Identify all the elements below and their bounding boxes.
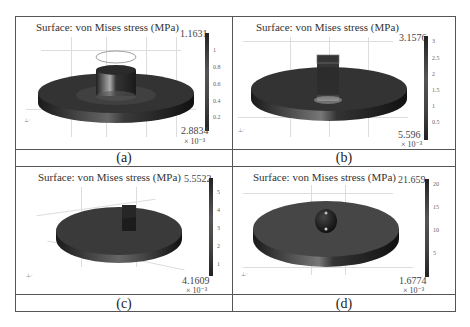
colorbar-tick: 3 bbox=[432, 38, 435, 44]
caption-b: (b) bbox=[233, 150, 455, 166]
colorbar-max: 21.659 bbox=[398, 174, 426, 185]
colorbar-tick: 5 bbox=[217, 189, 220, 195]
panel-b: Surface: von Mises stress (MPa) ⊥⁄ 3.157… bbox=[233, 17, 455, 149]
colorbar-min: 5.596 bbox=[398, 129, 421, 140]
colorbar-exponent: × 10⁻³ bbox=[184, 137, 205, 146]
colorbar-tick: 20 bbox=[433, 181, 439, 187]
colorbar-tick: 3 bbox=[217, 225, 220, 231]
panel-d: Surface: von Mises stress (MPa) ⊥⁄ 21.65… bbox=[233, 167, 455, 294]
panel-title: Surface: von Mises stress (MPa) bbox=[256, 21, 399, 33]
colorbar-tick: 2 bbox=[432, 71, 435, 77]
colorbar-tick: 0.5 bbox=[432, 119, 440, 125]
stress-surface-plot bbox=[36, 45, 196, 135]
colorbar-min: 2.8834 bbox=[181, 125, 209, 136]
axis-triad-icon: ⊥⁄ bbox=[26, 272, 32, 278]
axis-triad-icon: ⊥⁄ bbox=[238, 127, 244, 133]
colorbar-tick: 0.6 bbox=[213, 81, 221, 87]
stress-surface-plot bbox=[251, 197, 401, 272]
colorbar-exponent: × 10⁻³ bbox=[186, 286, 207, 294]
colorbar-tick: 1.5 bbox=[432, 87, 440, 93]
colorbar-tick: 2 bbox=[217, 243, 220, 249]
colorbar-exponent: × 10⁻³ bbox=[401, 140, 422, 149]
colorbar-tick: 0.2 bbox=[213, 114, 221, 120]
colorbar-tick: 0.4 bbox=[213, 98, 221, 104]
axis-triad-icon: ⊥⁄ bbox=[24, 117, 30, 123]
gridline bbox=[243, 41, 393, 42]
stress-surface-plot bbox=[54, 199, 184, 269]
panel-title: Surface: von Mises stress (MPa) bbox=[38, 171, 181, 183]
colorbar-tick: 15 bbox=[433, 204, 439, 210]
axis-triad-icon: ⊥⁄ bbox=[241, 271, 247, 277]
colorbar-tick: 5 bbox=[433, 250, 436, 256]
colorbar-max: 1.1631 bbox=[180, 28, 208, 39]
colorbar bbox=[205, 33, 209, 131]
colorbar-max: 3.1576 bbox=[399, 32, 427, 43]
colorbar-min: 1.6774 bbox=[399, 275, 427, 286]
colorbar-max: 5.5522 bbox=[184, 173, 212, 184]
colorbar-tick: 4 bbox=[217, 207, 220, 213]
colorbar-tick: 1 bbox=[217, 261, 220, 267]
colorbar-exponent: × 10⁻³ bbox=[403, 286, 424, 294]
colorbar bbox=[424, 36, 428, 140]
caption-c: (c) bbox=[16, 296, 232, 312]
panel-a: Surface: von Mises stress (MPa) ⊥⁄ 1.163… bbox=[16, 17, 232, 149]
colorbar-tick: 2.5 bbox=[432, 55, 440, 61]
caption-d: (d) bbox=[233, 296, 455, 312]
colorbar-tick: 0.8 bbox=[213, 64, 221, 70]
panel-title: Surface: von Mises stress (MPa) bbox=[253, 171, 396, 183]
colorbar-tick: 10 bbox=[433, 227, 439, 233]
stress-surface-plot bbox=[249, 51, 409, 131]
colorbar bbox=[425, 179, 429, 277]
colorbar-tick: 1 bbox=[432, 103, 435, 109]
colorbar bbox=[209, 178, 213, 276]
panel-c: Surface: von Mises stress (MPa) ⊥⁄ 5.552… bbox=[16, 167, 232, 294]
panel-title: Surface: von Mises stress (MPa) bbox=[36, 21, 179, 33]
colorbar-tick: 1 bbox=[213, 47, 216, 53]
caption-a: (a) bbox=[16, 150, 232, 166]
divider-caption-c-top bbox=[15, 294, 456, 295]
gridline bbox=[243, 193, 393, 194]
colorbar-min: 4.1609 bbox=[182, 275, 210, 286]
